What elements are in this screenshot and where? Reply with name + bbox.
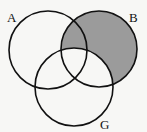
label-a: A [7, 10, 17, 25]
label-b: B [129, 10, 138, 25]
label-g: G [100, 117, 109, 132]
venn-diagram: A B G [0, 0, 147, 132]
